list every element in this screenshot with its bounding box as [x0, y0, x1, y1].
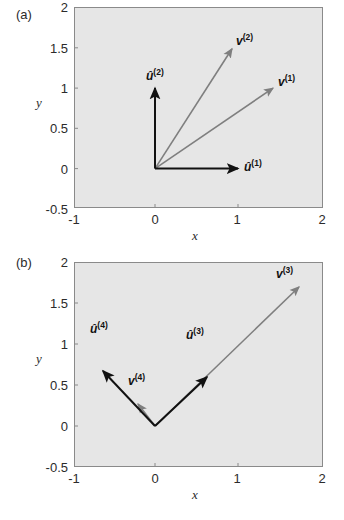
- vector-label-u-hat-1: û(1): [244, 158, 262, 174]
- v-1-base: v: [278, 75, 285, 89]
- u-hat-1-sup: (1): [251, 158, 261, 168]
- figure-container: (a) 2 1.5 1 0.5 0 -0.5 -1 0 1 2 y x: [0, 0, 344, 520]
- vector-v2-line: [155, 49, 232, 169]
- v-4-sup: (4): [135, 372, 145, 382]
- v-1-sup: (1): [285, 73, 295, 83]
- u-hat-3-sup: (3): [193, 326, 203, 336]
- u-hat-4-sup: (4): [97, 320, 107, 330]
- vector-label-v-2: v(2): [236, 32, 253, 48]
- vector-label-v-4: v(4): [128, 372, 145, 388]
- v-2-sup: (2): [243, 32, 253, 42]
- vector-v1-line: [155, 88, 273, 169]
- u-hat-2-sup: (2): [153, 67, 163, 77]
- vector-label-u-hat-4: û(4): [90, 320, 108, 336]
- vector-label-u-hat-3: û(3): [186, 326, 204, 342]
- vector-label-v-3: v(3): [276, 265, 293, 281]
- panel-a-vector-layer: [0, 0, 344, 248]
- vector-label-u-hat-2: û(2): [146, 67, 164, 83]
- vector-label-v-1: v(1): [278, 73, 295, 89]
- v-2-base: v: [236, 34, 243, 48]
- panel-b: (b) 2 1.5 1 0.5 0 -0.5 -1 0 1 2 y x: [0, 248, 344, 520]
- v-4-base: v: [128, 374, 135, 388]
- panel-a: (a) 2 1.5 1 0.5 0 -0.5 -1 0 1 2 y x: [0, 0, 344, 248]
- vector-u3-line: [155, 377, 207, 426]
- v-3-sup: (3): [283, 265, 293, 275]
- panel-b-vector-layer: [0, 248, 344, 520]
- v-3-base: v: [276, 267, 283, 281]
